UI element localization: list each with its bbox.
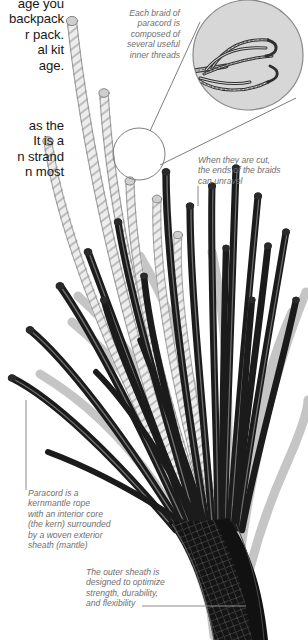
- caption-outer-sheath: The outer sheath is designed to optimize…: [86, 567, 198, 609]
- caption-braid-threads: Each braid of paracord is composed of se…: [80, 8, 180, 60]
- caption-kernmantle: Paracord is a kernmantle rope with an in…: [28, 488, 136, 550]
- small-magnifier-circle: [113, 128, 165, 180]
- illustration-page: age you backpack r pack. al kit age. as …: [0, 0, 308, 640]
- body-text-block-2: as the It is a n strand n most: [0, 118, 64, 180]
- caption-cut-ends: When they are cut, the ends of the braid…: [198, 155, 302, 186]
- body-text-block-1: age you backpack r pack. al kit age.: [0, 0, 64, 73]
- inner-threads-magnifier: [186, 0, 303, 110]
